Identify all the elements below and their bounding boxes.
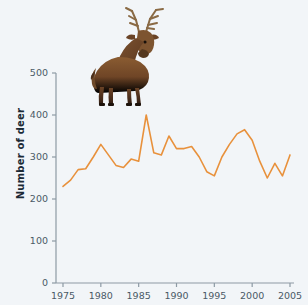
deer-population-line: [63, 115, 290, 186]
x-tick-label: 2005: [278, 290, 302, 301]
x-tick-label: 1985: [127, 290, 151, 301]
x-tick-label: 1995: [202, 290, 226, 301]
x-tick-label: 1990: [164, 290, 188, 301]
x-tick-label: 2000: [240, 290, 264, 301]
y-tick-label: 0: [42, 277, 48, 288]
plot-area: 0100200300400500 19751980198519901995200…: [0, 0, 308, 305]
y-axis: 0100200300400500: [30, 67, 56, 288]
y-tick-label: 300: [30, 151, 48, 162]
x-axis: 1975198019851990199520002005: [51, 283, 302, 301]
x-tick-label: 1975: [51, 290, 75, 301]
y-tick-label: 200: [30, 193, 48, 204]
y-tick-label: 400: [30, 109, 48, 120]
deer-population-chart: Number of deer 0100200300400500 19751980…: [0, 0, 308, 305]
x-tick-label: 1980: [89, 290, 113, 301]
y-tick-label: 500: [30, 67, 48, 78]
y-tick-label: 100: [30, 235, 48, 246]
